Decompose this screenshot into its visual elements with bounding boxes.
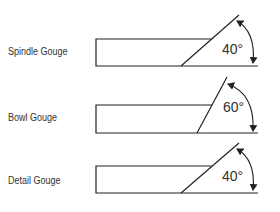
spindle-angle-label: 40° <box>222 41 243 57</box>
spindle-gouge-label: Spindle Gouge <box>8 46 68 57</box>
detail-angle-label: 40° <box>222 168 243 184</box>
detail-gouge-label: Detail Gouge <box>8 175 61 186</box>
bowl-angle-label: 60° <box>223 99 244 115</box>
gouge-detail: 40° <box>96 143 258 193</box>
gouge-bowl: 60° <box>96 77 258 133</box>
gouge-spindle: 40° <box>96 15 258 66</box>
bowl-gouge-label: Bowl Gouge <box>8 112 57 123</box>
gouge-angle-diagram: 40° 60° 40° Spindle Gouge Bowl Gouge Det… <box>0 0 280 212</box>
